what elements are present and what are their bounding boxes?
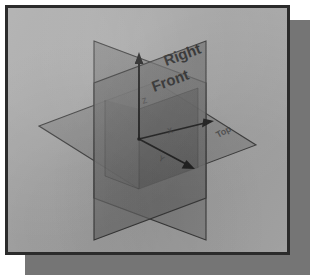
orthogonal-planes-diagram: Right Front Top Z X Y — [8, 8, 287, 252]
figure-frame: Right Front Top Z X Y — [5, 5, 290, 255]
screenshot-root: Right Front Top Z X Y — [0, 0, 310, 275]
origin-marker — [137, 137, 141, 141]
